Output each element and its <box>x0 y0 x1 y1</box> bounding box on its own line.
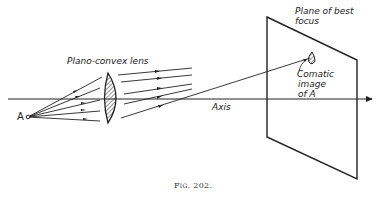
image-label-line2: image <box>298 79 326 89</box>
comatic-image <box>308 52 315 64</box>
point-a-label: A <box>17 112 24 122</box>
point-a <box>26 115 30 119</box>
figure-caption: Fig. 202. <box>174 181 212 190</box>
axis-label: Axis <box>212 102 231 112</box>
image-label-line3: of A <box>298 89 316 99</box>
lens-label: Plano-convex lens <box>67 56 149 66</box>
axis-arrow-icon <box>366 96 373 102</box>
image-label-line1: Comatic <box>297 69 334 79</box>
plane-label-line2: focus <box>295 16 319 26</box>
plane-label-line1: Plane of best <box>295 6 354 16</box>
coma-diagram <box>0 0 380 198</box>
plano-convex-lens <box>105 73 117 123</box>
